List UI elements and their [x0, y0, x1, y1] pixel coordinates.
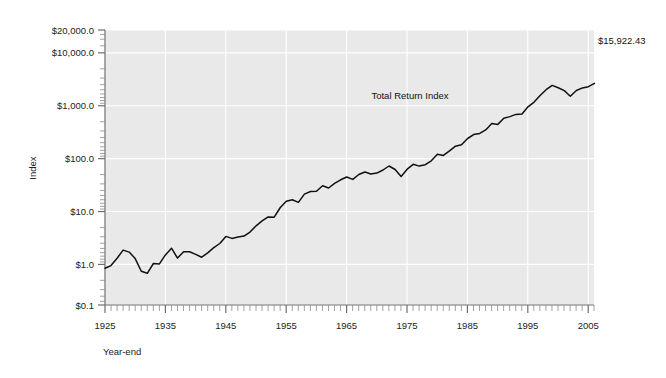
y-axis-major-ticks	[98, 30, 105, 305]
x-tick-label-1965: 1965	[336, 320, 357, 331]
y-tick-label-1000: $1,000.0	[57, 100, 94, 111]
x-tick-label-1985: 1985	[457, 320, 478, 331]
x-tick-label-1995: 1995	[517, 320, 538, 331]
y-tick-label-20000: $20,000.0	[52, 25, 94, 36]
y-axis-title: Index	[27, 156, 38, 179]
y-axis-minor-ticks	[100, 34, 105, 301]
x-axis-title: Year-end	[103, 346, 141, 357]
x-axis-tick-labels: 1925 1935 1945 1955 1965 1975 1985 1995 …	[94, 320, 598, 331]
x-tick-label-1935: 1935	[155, 320, 176, 331]
x-tick-label-2005: 2005	[578, 320, 599, 331]
y-tick-label-10: $10.0	[70, 206, 94, 217]
x-tick-label-1925: 1925	[94, 320, 115, 331]
end-value-label: $15,922.43	[598, 35, 646, 46]
total-return-index-chart: $20,000.0 $10,000.0 $1,000.0 $100.0 $10.…	[0, 0, 666, 378]
y-axis-tick-labels: $20,000.0 $10,000.0 $1,000.0 $100.0 $10.…	[52, 25, 94, 311]
y-tick-label-1: $1.0	[76, 259, 95, 270]
chart-figure: $20,000.0 $10,000.0 $1,000.0 $100.0 $10.…	[0, 0, 666, 378]
plot-area-background	[105, 30, 594, 305]
y-tick-label-100: $100.0	[65, 153, 94, 164]
y-tick-label-0-1: $0.1	[76, 300, 95, 311]
series-annotation-label: Total Return Index	[371, 90, 448, 101]
y-tick-label-10000: $10,000.0	[52, 47, 94, 58]
x-tick-label-1955: 1955	[276, 320, 297, 331]
x-tick-label-1975: 1975	[396, 320, 417, 331]
x-tick-label-1945: 1945	[215, 320, 236, 331]
x-axis-ticks	[105, 305, 594, 313]
